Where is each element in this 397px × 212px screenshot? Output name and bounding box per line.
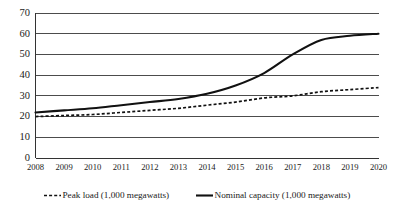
x-axis-tick-label: 2016 [256,162,274,172]
line-chart-figure: 010203040506070 200820092010201120122013… [0,0,397,212]
y-axis-tick-label: 70 [20,7,31,18]
chart-legend: Peak load (1,000 megawatts)Nominal capac… [44,190,350,200]
x-axis-tick-label: 2008 [27,162,44,172]
x-axis-tick-label: 2009 [55,162,72,172]
x-axis-tick-label: 2011 [113,162,130,172]
x-axis-tick-labels: 2008200920102011201220132014201520162017… [27,162,387,172]
x-axis-tick-label: 2014 [198,162,216,172]
series-line-peak-load [36,88,379,117]
series-line-nominal-capacity [36,34,379,113]
x-axis-tick-label: 2015 [227,162,244,172]
x-axis-tick-label: 2010 [84,162,101,172]
y-axis-tick-label: 50 [20,48,31,59]
x-axis-tick-label: 2018 [313,162,330,172]
y-axis-tick-label: 10 [20,131,31,142]
x-axis-tick-label: 2019 [341,162,358,172]
chart-canvas: 010203040506070 200820092010201120122013… [0,0,397,212]
legend-label-peak-load: Peak load (1,000 megawatts) [63,190,170,200]
y-axis-tick-label: 30 [20,90,31,101]
y-axis-tick-label: 40 [20,69,31,80]
gridlines [36,13,379,158]
x-axis-tick-label: 2012 [141,162,158,172]
y-axis-tick-label: 20 [20,110,31,121]
x-axis-tick-label: 2017 [284,162,302,172]
x-axis-tick-label: 2013 [170,162,187,172]
legend-label-nominal-capacity: Nominal capacity (1,000 megawatts) [215,190,351,200]
y-axis-tick-labels: 010203040506070 [20,7,31,163]
y-axis-tick-label: 60 [20,28,31,39]
x-axis-tick-label: 2020 [370,162,387,172]
